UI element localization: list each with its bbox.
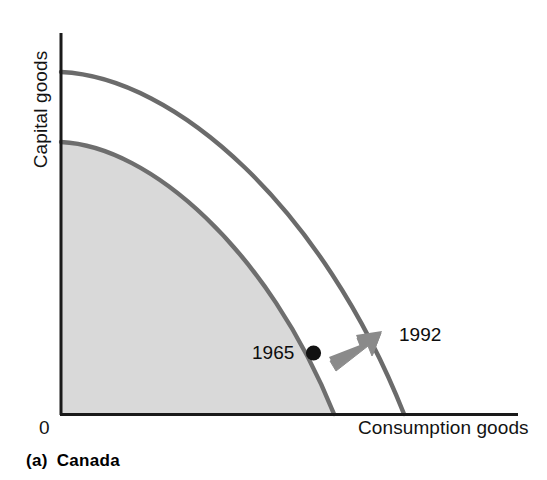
production-point-1965-marker [306, 345, 321, 360]
growth-arrow-icon [329, 331, 382, 371]
ppf-figure-canada: Capital goods Consumption goods 0 1965 1… [0, 0, 547, 480]
attainable-region-1965 [61, 142, 334, 414]
annotation-label-1992: 1992 [399, 325, 441, 344]
panel-caption: (a)Canada [26, 452, 120, 469]
ppf-chart-canvas [0, 0, 547, 480]
x-axis-label: Consumption goods [358, 418, 529, 437]
origin-label: 0 [39, 418, 50, 437]
annotation-label-1965: 1965 [252, 343, 294, 362]
y-axis-label: Capital goods [31, 25, 50, 195]
panel-caption-title: Canada [57, 451, 120, 470]
panel-caption-letter: (a) [26, 451, 48, 470]
